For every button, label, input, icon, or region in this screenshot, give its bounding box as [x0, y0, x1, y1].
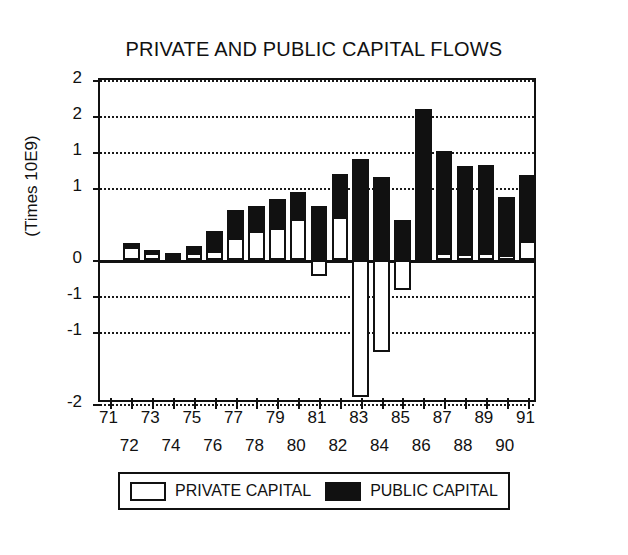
x-axis-tick — [382, 398, 384, 409]
bar-segment-private — [186, 253, 203, 260]
x-axis-tick-label: 87 — [425, 409, 459, 426]
bar-segment-public — [123, 243, 140, 247]
bar-segment-private — [227, 238, 244, 260]
bar-segment-private — [373, 260, 390, 352]
bar-segment-public — [373, 177, 390, 260]
gridline — [100, 152, 534, 154]
y-axis-tick — [93, 152, 102, 154]
y-axis-tick-label: -1 — [42, 285, 82, 302]
bar-segment-private — [352, 260, 369, 397]
bar-segment-private — [394, 260, 411, 290]
bar-segment-public — [311, 206, 328, 260]
bar-segment-public — [519, 175, 536, 241]
legend-label-private: PRIVATE CAPITAL — [175, 482, 311, 500]
bar-segment-private — [332, 217, 349, 260]
bar-segment-public — [394, 220, 411, 260]
legend-item-private: PRIVATE CAPITAL — [130, 482, 311, 501]
bar-segment-public — [352, 159, 369, 260]
x-axis-tick-label: 78 — [237, 437, 271, 454]
bar-segment-public — [290, 192, 307, 219]
bar-segment-public — [227, 210, 244, 239]
y-axis-tick — [93, 116, 102, 118]
x-axis-tick — [256, 398, 258, 409]
y-axis-tick-label: 2 — [42, 69, 82, 86]
x-axis-tick — [423, 398, 425, 409]
y-axis-tick-label: 2 — [42, 105, 82, 122]
bar-segment-private — [311, 260, 328, 276]
x-axis-tick-label: 84 — [363, 437, 397, 454]
bar-segment-public — [436, 151, 453, 253]
x-axis-tick — [507, 398, 509, 409]
white-box-swatch-icon — [130, 482, 166, 501]
bar-segment-private — [269, 228, 286, 260]
legend-label-public: PUBLIC CAPITAL — [370, 482, 498, 500]
x-axis-tick-label: 90 — [488, 437, 522, 454]
chart-title: PRIVATE AND PUBLIC CAPITAL FLOWS — [0, 38, 628, 61]
chart-legend: PRIVATE CAPITAL PUBLIC CAPITAL — [118, 472, 510, 510]
x-axis-tick — [465, 398, 467, 409]
y-axis-tick — [93, 188, 102, 190]
bar-segment-public — [206, 231, 223, 251]
y-axis-tick — [93, 80, 102, 82]
x-axis-tick-label: 82 — [321, 437, 355, 454]
y-axis-tick — [93, 332, 102, 334]
x-axis-tick — [215, 398, 217, 409]
x-axis-tick-label: 83 — [342, 409, 376, 426]
gridline — [100, 116, 534, 118]
y-axis-tick-label: -2 — [42, 393, 82, 410]
legend-item-public: PUBLIC CAPITAL — [325, 482, 498, 501]
y-axis-tick-label: -1 — [42, 321, 82, 338]
x-axis-tick-label: 79 — [258, 409, 292, 426]
gridline — [100, 80, 534, 82]
bar-segment-private — [457, 254, 474, 260]
x-axis-tick-label: 71 — [91, 409, 125, 426]
x-axis-tick — [173, 398, 175, 409]
bar-segment-private — [519, 241, 536, 260]
bar-segment-private — [165, 256, 182, 260]
x-axis-tick — [298, 398, 300, 409]
bar-segment-private — [498, 255, 515, 260]
gridline — [100, 332, 534, 334]
x-axis-tick-label: 76 — [196, 437, 230, 454]
y-axis-tick — [93, 404, 102, 406]
x-axis-tick-label: 75 — [175, 409, 209, 426]
x-axis-tick — [131, 398, 133, 409]
bar-segment-public — [165, 253, 182, 256]
x-axis-tick-label: 77 — [217, 409, 251, 426]
black-box-swatch-icon — [325, 482, 361, 501]
bar-segment-public — [269, 199, 286, 228]
bar-segment-private — [206, 251, 223, 260]
gridline — [100, 404, 534, 406]
y-axis-tick-label: 0 — [42, 249, 82, 266]
x-axis-tick-label: 81 — [300, 409, 334, 426]
x-axis-tick-label: 73 — [133, 409, 167, 426]
gridline — [100, 296, 534, 298]
bar-segment-public — [415, 109, 432, 257]
x-axis-tick-label: 89 — [467, 409, 501, 426]
bar-segment-private — [248, 231, 265, 260]
bar-segment-public — [498, 197, 515, 255]
x-axis-tick-label: 88 — [446, 437, 480, 454]
x-axis-tick-label: 74 — [154, 437, 188, 454]
bar-segment-public — [144, 250, 161, 253]
bar-segment-public — [478, 165, 495, 253]
x-axis-tick-label: 85 — [383, 409, 417, 426]
bar-segment-private — [290, 219, 307, 260]
x-axis-tick-label: 86 — [404, 437, 438, 454]
bar-segment-private — [123, 247, 140, 260]
y-axis-tick-label: 1 — [42, 141, 82, 158]
y-axis-tick — [93, 296, 102, 298]
bar-segment-private — [436, 253, 453, 260]
bar-segment-public — [248, 206, 265, 231]
x-axis-tick-label: 91 — [509, 409, 543, 426]
bar-segment-public — [457, 166, 474, 254]
plot-area — [98, 78, 536, 402]
x-axis-tick-label: 80 — [279, 437, 313, 454]
y-axis-tick-label: 1 — [42, 177, 82, 194]
bar-segment-public — [186, 246, 203, 253]
bar-segment-private — [415, 256, 432, 260]
x-axis-tick-label: 72 — [112, 437, 146, 454]
bar-segment-private — [478, 253, 495, 260]
bar-segment-private — [144, 253, 161, 260]
bar-segment-public — [332, 174, 349, 217]
